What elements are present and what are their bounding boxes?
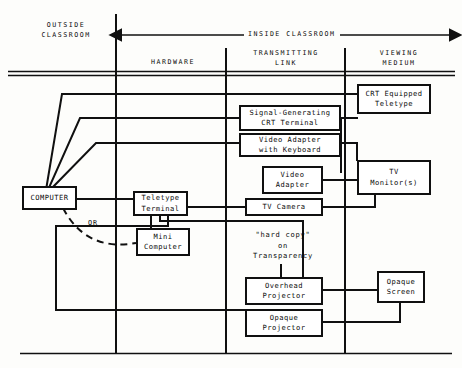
node-signal-generating-crt-terminal[interactable]: Signal-Generating CRT Terminal [239,105,341,131]
zone-label-inside-classroom: INSIDE CLASSROOM [244,30,340,38]
column-header-viewing-medium: VIEWING MEDIUM [358,48,440,68]
column-header-transmitting-link: TRANSMITTING LINK [240,48,332,68]
node-video-adapter-with-keyboard[interactable]: Video Adapter with Keyboard [239,133,341,157]
node-mini-computer[interactable]: Mini Computer [136,228,190,256]
zone-label-outside-classroom: OUTSIDE CLASSROOM [30,20,102,40]
node-teletype-terminal[interactable]: Teletype Terminal [133,191,188,216]
node-video-adapter[interactable]: Video Adapter [262,166,323,194]
diagram-canvas-root: OUTSIDE CLASSROOM INSIDE CLASSROOM HARDW… [0,0,462,368]
node-opaque-screen[interactable]: Opaque Screen [377,271,425,303]
column-header-hardware: HARDWARE [132,57,214,67]
node-overhead-projector[interactable]: Overhead Projector [245,277,323,305]
caption-or: OR [88,219,98,227]
node-computer[interactable]: COMPUTER [22,186,77,210]
node-opaque-projector[interactable]: Opaque Projector [245,309,323,337]
caption-hard-copy-on-transparency: "hard copy" on Transparency [243,230,323,262]
node-crt-equipped-teletype[interactable]: CRT Equipped Teletype [357,84,431,114]
node-tv-monitors[interactable]: TV Monitor(s) [357,160,431,195]
node-tv-camera[interactable]: TV Camera [245,198,323,216]
